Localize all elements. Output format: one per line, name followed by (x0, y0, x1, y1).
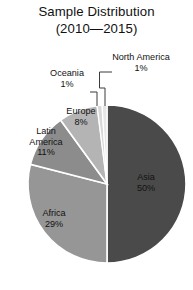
slice-label-asia-value: 50% (122, 183, 170, 194)
leader-line-oceania (90, 92, 97, 106)
slice-label-latin-america: Latin America 11% (16, 126, 76, 158)
pie-chart: Sample Distribution (2010—2015) Asia 50% (0, 0, 193, 290)
slice-label-oceania-value: 1% (44, 79, 90, 90)
leader-lines (90, 72, 112, 106)
slice-label-africa: Africa 29% (27, 208, 81, 229)
slice-label-oceania: Oceania 1% (44, 68, 90, 89)
slice-label-europe-value: 8% (58, 117, 104, 128)
slice-label-europe-name: Europe (58, 106, 104, 117)
slice-label-latin-america-value: 11% (16, 147, 76, 158)
slice-label-africa-value: 29% (27, 219, 81, 230)
slice-label-north-america-value: 1% (105, 63, 177, 74)
leader-line-north-america (100, 72, 113, 106)
slice-label-europe: Europe 8% (58, 106, 104, 127)
slice-label-oceania-name: Oceania (44, 68, 90, 79)
slice-label-north-america-name: North America (105, 52, 177, 63)
slice-label-africa-name: Africa (27, 208, 81, 219)
slice-label-latin-america-name-line2: America (16, 137, 76, 148)
slice-label-asia: Asia 50% (122, 172, 170, 193)
slice-label-asia-name: Asia (122, 172, 170, 183)
pie-plot-area: Asia 50% Africa 29% Latin America 11% Eu… (0, 0, 193, 290)
slice-label-latin-america-name-line1: Latin (16, 126, 76, 137)
slice-label-north-america: North America 1% (105, 52, 177, 73)
